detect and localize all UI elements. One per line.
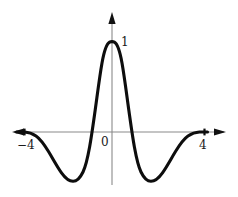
x-axis-label-minus-4: −4	[17, 139, 35, 151]
y-axis-top-arrow-icon	[108, 12, 115, 24]
y-axis-label-1: 1	[121, 36, 129, 48]
x-axis-right-arrow-icon	[214, 128, 226, 135]
origin-label: 0	[101, 136, 109, 148]
function-plot-figure: −4 0 4 1	[0, 0, 238, 197]
x-axis-label-4: 4	[199, 139, 207, 151]
plot-canvas	[0, 0, 238, 197]
